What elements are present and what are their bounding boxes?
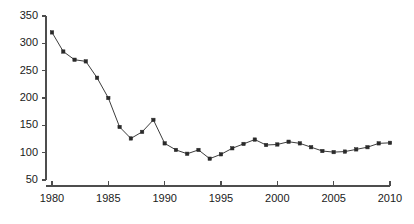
x-axis-tick-label: 1980 [27,193,77,204]
data-point-marker [321,149,324,152]
data-point-marker [343,150,346,153]
data-point-marker [355,148,358,151]
x-axis-tick-label: 1990 [140,193,190,204]
data-point-marker [366,146,369,149]
data-point-marker [242,142,245,145]
data-point-marker [231,147,234,150]
data-point-marker [219,153,222,156]
data-point-marker [140,130,143,133]
y-axis-tick-label: 150 [4,119,38,130]
data-point-marker [298,142,301,145]
y-axis-tick-label: 50 [4,174,38,185]
data-point-marker [129,137,132,140]
data-point-marker [332,150,335,153]
y-axis-tick-label: 100 [4,147,38,158]
series-line-0 [52,32,390,158]
data-point-marker [309,146,312,149]
x-axis-tick-label: 1985 [83,193,133,204]
data-point-marker [264,143,267,146]
data-point-marker [73,58,76,61]
data-point-marker [84,60,87,63]
data-point-marker [152,118,155,121]
y-axis-tick-label: 200 [4,92,38,103]
x-axis-tick-label: 2005 [309,193,359,204]
data-point-marker [377,142,380,145]
line-chart: 5010015020025030035019801985199019952000… [0,0,414,224]
chart-plot-area [0,0,414,224]
data-point-marker [197,148,200,151]
y-axis-tick-label: 350 [4,10,38,21]
y-axis-tick-label: 300 [4,37,38,48]
data-point-marker [388,141,391,144]
data-point-marker [95,76,98,79]
data-point-marker [62,50,65,53]
data-point-marker [118,125,121,128]
data-point-marker [174,148,177,151]
x-axis-tick-label: 2000 [252,193,302,204]
data-point-marker [186,152,189,155]
y-axis-tick-label: 250 [4,65,38,76]
data-point-marker [107,96,110,99]
data-point-marker [253,138,256,141]
data-point-marker [208,157,211,160]
x-axis-tick-label: 1995 [196,193,246,204]
data-point-marker [276,143,279,146]
data-point-marker [163,142,166,145]
data-point-marker [50,31,53,34]
x-axis-tick-label: 2010 [365,193,414,204]
data-point-marker [287,140,290,143]
